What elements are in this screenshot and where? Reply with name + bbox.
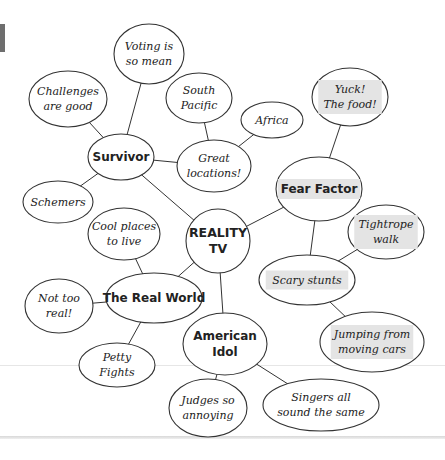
mind-map-diagram: REALITYTVSurvivorVoting isso meanChallen… — [0, 0, 445, 460]
node-label: The Real World — [103, 291, 206, 305]
node-ellipse — [114, 24, 184, 84]
node-judges: Judges soannoying — [169, 379, 247, 437]
node-label: Survivor — [92, 150, 149, 164]
node-south-pacific: SouthPacific — [166, 73, 232, 123]
node-survivor: Survivor — [88, 134, 154, 180]
node-label: Schemers — [30, 196, 85, 209]
node-label: Fear Factor — [281, 182, 358, 196]
node-africa: Africa — [241, 102, 303, 138]
node-yuck: Yuck!The food! — [312, 68, 388, 126]
node-label: Africa — [254, 114, 288, 127]
node-cool-places: Cool placesto live — [88, 208, 160, 260]
node-american-idol: AmericanIdol — [183, 313, 267, 375]
node-petty-fights: PettyFights — [79, 343, 155, 387]
node-ellipse — [169, 379, 247, 437]
node-real-world: The Real World — [103, 273, 206, 323]
node-challenges: Challengesare good — [29, 71, 107, 127]
node-ellipse — [177, 140, 251, 192]
node-ellipse — [88, 208, 160, 260]
node-tightrope: Tightropewalk — [348, 205, 424, 259]
node-fear-factor: Fear Factor — [276, 157, 362, 221]
node-scary-stunts: Scary stunts — [259, 255, 355, 305]
node-jumping: Jumping frommoving cars — [320, 312, 424, 372]
node-ellipse — [183, 313, 267, 375]
node-ellipse — [263, 379, 379, 431]
node-ellipse — [166, 73, 232, 123]
node-not-too-real: Not tooreal! — [25, 279, 93, 333]
node-singers: Singers allsound the same — [263, 379, 379, 431]
nodes-layer: REALITYTVSurvivorVoting isso meanChallen… — [23, 24, 424, 437]
node-ellipse — [25, 279, 93, 333]
node-ellipse — [79, 343, 155, 387]
node-reality-tv: REALITYTV — [186, 209, 250, 273]
node-ellipse — [29, 71, 107, 127]
node-great-locations: Greatlocations! — [177, 140, 251, 192]
node-label: Scary stunts — [272, 274, 342, 287]
node-voting: Voting isso mean — [114, 24, 184, 84]
node-schemers: Schemers — [23, 181, 93, 223]
